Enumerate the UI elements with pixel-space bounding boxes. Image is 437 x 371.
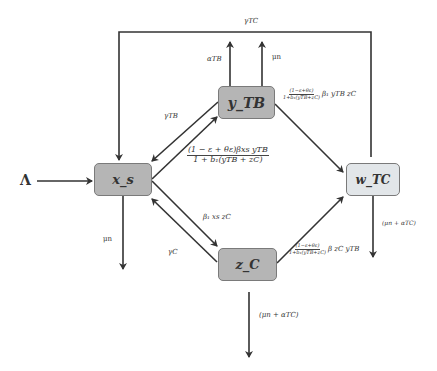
node-zc: z_C (218, 248, 277, 281)
rate-ytb-wtc-denominator: 1+b₁(yTB+zC) (283, 95, 320, 101)
label-mu-alpha-tc-z: (μn + αTC) (259, 312, 299, 319)
rate-xs-ytb-denominator: 1 + b₁(yTB + zC) (193, 156, 262, 165)
node-ytb: y_TB (218, 86, 275, 119)
rate-xs-ytb: (1 − ε + θε)βxs yTB 1 + b₁(yTB + zC) (187, 146, 269, 165)
rate-ytb-wtc: (1−ε+θε) 1+b₁(yTB+zC) β₁ yTB zC (283, 88, 356, 100)
node-xs-label: x_s (112, 172, 134, 187)
label-beta-xs-zc: β₁ xs zC (203, 214, 231, 221)
rate-zc-wtc-denominator: 1+b₁(yTB+zC) (289, 250, 326, 256)
rate-zc-wtc-fraction: (1−ε+θε) 1+b₁(yTB+zC) (289, 243, 326, 255)
label-gamma-c: γC (168, 249, 178, 256)
node-xs: x_s (94, 163, 152, 196)
node-wtc-label: w_TC (356, 173, 391, 187)
node-ytb-label: y_TB (228, 95, 265, 111)
label-lambda: Λ (20, 173, 31, 187)
label-alpha-tb: αTB (207, 56, 222, 63)
label-gamma-tc: γTC (244, 18, 258, 25)
rate-zc-wtc-tail: β zC yTB (328, 245, 359, 253)
rate-zc-wtc: (1−ε+θε) 1+b₁(yTB+zC) β zC yTB (289, 243, 359, 255)
edge-zc-to-xs (152, 199, 217, 262)
node-wtc: w_TC (346, 163, 400, 196)
node-zc-label: z_C (235, 257, 259, 272)
label-mu-n-top: μn (272, 54, 281, 61)
label-mu-n-left: μn (103, 236, 112, 243)
rate-ytb-wtc-tail: β₁ yTB zC (322, 90, 356, 98)
rate-ytb-wtc-fraction: (1−ε+θε) 1+b₁(yTB+zC) (283, 88, 320, 100)
label-gamma-tb: γTB (164, 113, 178, 120)
edge-ytb-to-wtc (275, 104, 343, 172)
label-mu-alpha-tc-w: (μn + αTC) (382, 220, 416, 226)
